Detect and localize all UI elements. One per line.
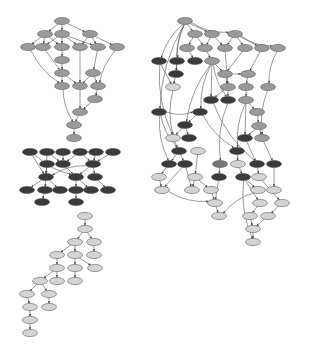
graph-node[interactable] bbox=[73, 148, 88, 155]
graph-node[interactable] bbox=[110, 43, 125, 50]
graph-node[interactable] bbox=[55, 82, 70, 89]
graph-node[interactable] bbox=[91, 43, 106, 50]
graph-node[interactable] bbox=[33, 277, 48, 284]
graph-node[interactable] bbox=[212, 212, 227, 219]
graph-node[interactable] bbox=[275, 199, 290, 206]
graph-node[interactable] bbox=[89, 148, 104, 155]
graph-node[interactable] bbox=[56, 148, 71, 155]
graph-node[interactable] bbox=[152, 57, 167, 64]
graph-node[interactable] bbox=[152, 173, 167, 180]
graph-node[interactable] bbox=[23, 329, 38, 336]
graph-node[interactable] bbox=[236, 173, 251, 180]
graph-node[interactable] bbox=[55, 17, 70, 24]
graph-node[interactable] bbox=[53, 186, 68, 193]
graph-node[interactable] bbox=[218, 44, 233, 51]
graph-node[interactable] bbox=[261, 212, 276, 219]
graph-node[interactable] bbox=[185, 186, 200, 193]
graph-node[interactable] bbox=[84, 186, 99, 193]
graph-node[interactable] bbox=[152, 108, 167, 115]
graph-node[interactable] bbox=[252, 122, 267, 129]
graph-node[interactable] bbox=[38, 186, 53, 193]
graph-node[interactable] bbox=[166, 134, 181, 141]
graph-node[interactable] bbox=[255, 134, 270, 141]
graph-node[interactable] bbox=[250, 160, 265, 167]
graph-node[interactable] bbox=[238, 134, 253, 141]
graph-node[interactable] bbox=[246, 238, 261, 245]
graph-node[interactable] bbox=[205, 57, 220, 64]
graph-node[interactable] bbox=[221, 96, 236, 103]
graph-node[interactable] bbox=[73, 43, 88, 50]
graph-node[interactable] bbox=[172, 147, 187, 154]
graph-node[interactable] bbox=[205, 30, 220, 37]
graph-node[interactable] bbox=[261, 83, 276, 90]
graph-node[interactable] bbox=[241, 70, 256, 77]
graph-node[interactable] bbox=[55, 56, 70, 63]
graph-node[interactable] bbox=[188, 173, 203, 180]
graph-node[interactable] bbox=[180, 44, 195, 51]
graph-node[interactable] bbox=[106, 148, 121, 155]
graph-node[interactable] bbox=[212, 173, 227, 180]
graph-node[interactable] bbox=[68, 251, 83, 258]
graph-node[interactable] bbox=[68, 277, 83, 284]
graph-node[interactable] bbox=[68, 238, 83, 245]
graph-node[interactable] bbox=[50, 277, 65, 284]
graph-node[interactable] bbox=[91, 82, 106, 89]
graph-node[interactable] bbox=[255, 44, 270, 51]
graph-node[interactable] bbox=[170, 57, 185, 64]
graph-node[interactable] bbox=[23, 303, 38, 310]
graph-node[interactable] bbox=[213, 160, 228, 167]
graph-node[interactable] bbox=[253, 199, 268, 206]
graph-node[interactable] bbox=[55, 43, 70, 50]
graph-node[interactable] bbox=[55, 30, 70, 37]
graph-node[interactable] bbox=[23, 316, 38, 323]
graph-node[interactable] bbox=[23, 148, 38, 155]
graph-node[interactable] bbox=[166, 83, 181, 90]
graph-node[interactable] bbox=[239, 83, 254, 90]
graph-node[interactable] bbox=[243, 212, 258, 219]
graph-node[interactable] bbox=[191, 147, 206, 154]
graph-node[interactable] bbox=[67, 121, 82, 128]
graph-node[interactable] bbox=[87, 238, 102, 245]
graph-node[interactable] bbox=[78, 225, 93, 232]
graph-node[interactable] bbox=[40, 160, 55, 167]
graph-node[interactable] bbox=[252, 173, 267, 180]
graph-node[interactable] bbox=[67, 134, 82, 141]
graph-node[interactable] bbox=[231, 160, 246, 167]
graph-node[interactable] bbox=[239, 96, 254, 103]
graph-node[interactable] bbox=[198, 44, 213, 51]
graph-node[interactable] bbox=[251, 186, 266, 193]
graph-node[interactable] bbox=[78, 212, 93, 219]
graph-node[interactable] bbox=[20, 290, 35, 297]
graph-node[interactable] bbox=[182, 134, 197, 141]
graph-node[interactable] bbox=[83, 30, 98, 37]
graph-node[interactable] bbox=[56, 160, 71, 167]
graph-node[interactable] bbox=[40, 148, 55, 155]
graph-node[interactable] bbox=[230, 147, 245, 154]
graph-node[interactable] bbox=[39, 173, 54, 180]
graph-node[interactable] bbox=[69, 198, 84, 205]
graph-node[interactable] bbox=[250, 108, 265, 115]
graph-node[interactable] bbox=[204, 186, 219, 193]
graph-node[interactable] bbox=[42, 303, 57, 310]
graph-node[interactable] bbox=[178, 17, 193, 24]
graph-node[interactable] bbox=[35, 198, 50, 205]
graph-node[interactable] bbox=[50, 264, 65, 271]
graph-node[interactable] bbox=[208, 199, 223, 206]
graph-node[interactable] bbox=[50, 251, 65, 258]
graph-node[interactable] bbox=[73, 108, 88, 115]
graph-node[interactable] bbox=[55, 69, 70, 76]
graph-node[interactable] bbox=[218, 70, 233, 77]
graph-node[interactable] bbox=[88, 264, 103, 271]
graph-node[interactable] bbox=[21, 43, 36, 50]
graph-node[interactable] bbox=[178, 160, 193, 167]
graph-node[interactable] bbox=[87, 251, 102, 258]
graph-node[interactable] bbox=[88, 95, 103, 102]
graph-node[interactable] bbox=[73, 82, 88, 89]
graph-node[interactable] bbox=[36, 43, 51, 50]
graph-node[interactable] bbox=[155, 186, 170, 193]
graph-node[interactable] bbox=[162, 160, 177, 167]
graph-node[interactable] bbox=[193, 108, 208, 115]
graph-node[interactable] bbox=[238, 44, 253, 51]
graph-node[interactable] bbox=[204, 96, 219, 103]
graph-node[interactable] bbox=[169, 70, 184, 77]
